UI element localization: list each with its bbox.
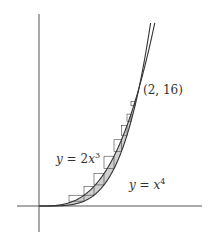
label-exp: 4 (160, 177, 165, 186)
label-x: x (88, 152, 95, 166)
label-equals: = (67, 152, 77, 166)
label-y: y (129, 178, 136, 192)
area-between-curves-diagram (0, 0, 210, 244)
label-coef: 2 (81, 152, 89, 166)
label-curve-x-fourth: y = x4 (129, 178, 165, 191)
label-intersection-point: (2, 16) (143, 84, 183, 96)
label-equals: = (140, 178, 150, 192)
shaded-region (39, 88, 139, 206)
label-y: y (56, 152, 63, 166)
label-curve-2x-cubed: y = 2x3 (56, 152, 100, 165)
label-exp: 3 (95, 151, 100, 160)
